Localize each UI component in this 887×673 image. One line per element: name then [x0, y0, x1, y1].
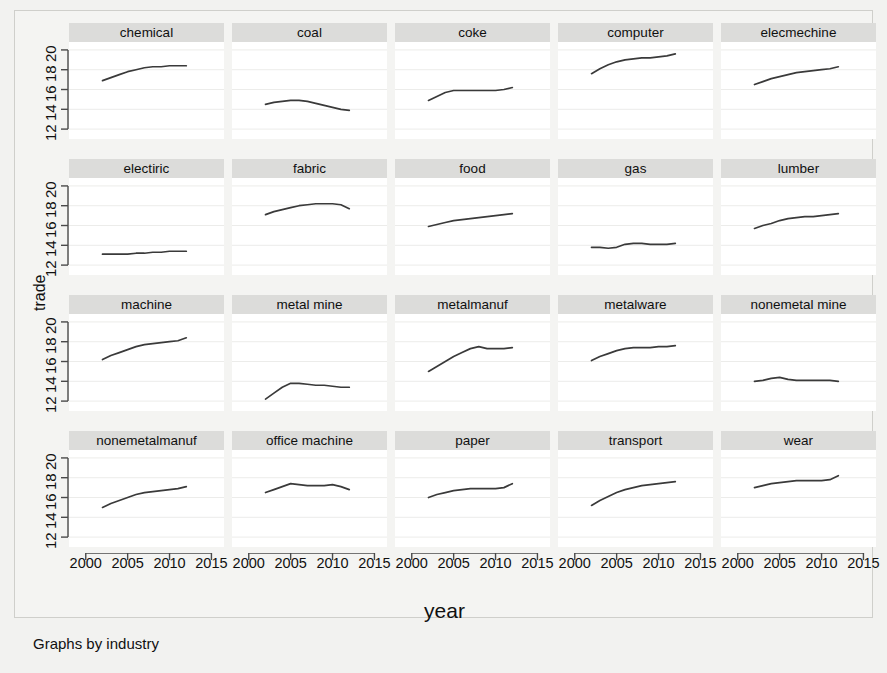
y-tick-label: 12: [42, 124, 59, 141]
panel-plot-area: [395, 42, 550, 139]
panel-title: metalmanuf: [395, 295, 550, 314]
panel-title: paper: [395, 431, 550, 450]
panel-transport: transport: [558, 431, 713, 547]
panel-office-machine: office machine: [232, 431, 387, 547]
x-tick-label: 2010: [153, 555, 185, 571]
x-tick-label: 2005: [275, 555, 307, 571]
panel-title: chemical: [69, 23, 224, 42]
y-tick-label: 16: [42, 357, 59, 374]
y-tick-label: 14: [42, 513, 59, 530]
x-tick-label: 2015: [358, 555, 390, 571]
panel-electiric: electiric: [69, 159, 224, 275]
panel-metalmanuf: metalmanuf: [395, 295, 550, 411]
panel-plot-area: [721, 178, 876, 275]
x-tick-label: 2015: [195, 555, 227, 571]
panel-paper: paper: [395, 431, 550, 547]
panel-lumber: lumber: [721, 159, 876, 275]
y-tick-label: 18: [42, 201, 59, 218]
panel-nonemetal-mine: nonemetal mine: [721, 295, 876, 411]
y-tick-label: 18: [42, 65, 59, 82]
panel-plot-area: [232, 314, 387, 411]
x-tick-label: 2000: [396, 555, 428, 571]
panel-title: lumber: [721, 159, 876, 178]
panel-chemical: chemical: [69, 23, 224, 139]
y-tick-label: 20: [42, 45, 59, 62]
panel-title: elecmechine: [721, 23, 876, 42]
panel-title: machine: [69, 295, 224, 314]
panel-plot-area: [69, 178, 224, 275]
x-tick-label: 2005: [112, 555, 144, 571]
panel-coke: coke: [395, 23, 550, 139]
figure-note: Graphs by industry: [33, 635, 159, 652]
panel-wear: wear: [721, 431, 876, 547]
panel-coal: coal: [232, 23, 387, 139]
x-tick-label: 2010: [316, 555, 348, 571]
y-tick-label: 14: [42, 105, 59, 122]
panel-plot-area: [69, 42, 224, 139]
x-tick-label: 2015: [521, 555, 553, 571]
panel-metal-mine: metal mine: [232, 295, 387, 411]
x-tick-label: 2005: [764, 555, 796, 571]
y-tick-label: 20: [42, 453, 59, 470]
x-tick-label: 2010: [479, 555, 511, 571]
panel-title: wear: [721, 431, 876, 450]
x-tick-label: 2010: [805, 555, 837, 571]
x-tick-label: 2015: [847, 555, 879, 571]
x-tick-label: 2015: [684, 555, 716, 571]
panel-plot-area: [721, 450, 876, 547]
panel-title: gas: [558, 159, 713, 178]
y-tick-label: 16: [42, 493, 59, 510]
panel-plot-area: [558, 450, 713, 547]
y-tick-label: 14: [42, 241, 59, 258]
panel-grid: chemicalcoalcokecomputerelecmechineelect…: [15, 11, 872, 617]
x-tick-label: 2000: [70, 555, 102, 571]
x-tick-label: 2000: [559, 555, 591, 571]
panel-title: computer: [558, 23, 713, 42]
panel-plot-area: [395, 314, 550, 411]
panel-machine: machine: [69, 295, 224, 411]
panel-plot-area: [558, 314, 713, 411]
panel-food: food: [395, 159, 550, 275]
y-tick-label: 12: [42, 396, 59, 413]
panel-plot-area: [395, 178, 550, 275]
x-tick-label: 2010: [642, 555, 674, 571]
y-tick-label: 14: [42, 377, 59, 394]
panel-title: nonemetal mine: [721, 295, 876, 314]
panel-plot-area: [232, 42, 387, 139]
panel-title: metal mine: [232, 295, 387, 314]
panel-plot-area: [69, 450, 224, 547]
panel-plot-area: [721, 42, 876, 139]
x-axis-title: year: [15, 599, 874, 623]
y-tick-label: 16: [42, 221, 59, 238]
panel-plot-area: [558, 178, 713, 275]
x-tick-label: 2000: [233, 555, 265, 571]
panel-title: food: [395, 159, 550, 178]
panel-title: fabric: [232, 159, 387, 178]
panel-plot-area: [232, 450, 387, 547]
x-tick-label: 2005: [601, 555, 633, 571]
panel-plot-area: [395, 450, 550, 547]
panel-title: coke: [395, 23, 550, 42]
x-tick-label: 2005: [438, 555, 470, 571]
panel-plot-area: [69, 314, 224, 411]
figure-plate: chemicalcoalcokecomputerelecmechineelect…: [14, 10, 873, 618]
y-tick-label: 18: [42, 337, 59, 354]
y-tick-label: 18: [42, 473, 59, 490]
panel-nonemetalmanuf: nonemetalmanuf: [69, 431, 224, 547]
y-tick-label: 20: [42, 181, 59, 198]
y-tick-label: 20: [42, 317, 59, 334]
panel-title: nonemetalmanuf: [69, 431, 224, 450]
panel-title: electiric: [69, 159, 224, 178]
panel-fabric: fabric: [232, 159, 387, 275]
panel-plot-area: [558, 42, 713, 139]
panel-title: coal: [232, 23, 387, 42]
panel-title: office machine: [232, 431, 387, 450]
panel-title: transport: [558, 431, 713, 450]
y-axis-title: trade: [31, 275, 49, 311]
y-tick-label: 16: [42, 85, 59, 102]
y-tick-label: 12: [42, 532, 59, 549]
panel-elecmechine: elecmechine: [721, 23, 876, 139]
panel-gas: gas: [558, 159, 713, 275]
panel-metalware: metalware: [558, 295, 713, 411]
figure-canvas: chemicalcoalcokecomputerelecmechineelect…: [0, 0, 887, 673]
